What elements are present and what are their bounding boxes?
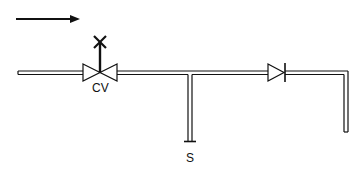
branch-label: S [186, 152, 194, 164]
branch-pipe [184, 75, 196, 142]
flow-arrow-icon [16, 15, 80, 23]
piping-diagram [0, 0, 364, 173]
check-valve-icon[interactable] [268, 63, 285, 82]
main-pipe [117, 71, 268, 75]
outlet-pipe [285, 71, 348, 132]
inlet-pipe [18, 71, 83, 75]
control-valve-label: CV [92, 82, 109, 94]
control-valve-icon[interactable] [83, 36, 117, 81]
